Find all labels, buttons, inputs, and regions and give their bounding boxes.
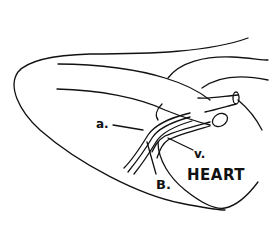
right-curve-lower: [238, 100, 262, 130]
right-curve-middle: [202, 77, 268, 88]
large-vessel-bottom: [205, 104, 236, 112]
right-curve-upper: [168, 57, 268, 78]
vessel-end-oval: [210, 111, 230, 129]
vessel-upper-line: [58, 64, 210, 100]
label-heart: HEART: [187, 168, 245, 183]
leader-line-v: [168, 138, 193, 150]
diagram-canvas: a. v. B. HEART: [0, 0, 277, 241]
upper-vessel-end: [233, 92, 239, 104]
anatomy-drawing: [0, 0, 277, 241]
leader-line-a: [113, 125, 143, 130]
label-vein: v.: [194, 148, 205, 160]
vessel-lower-line: [57, 89, 210, 125]
label-bundle: B.: [156, 178, 171, 191]
label-artery: a.: [96, 118, 109, 130]
